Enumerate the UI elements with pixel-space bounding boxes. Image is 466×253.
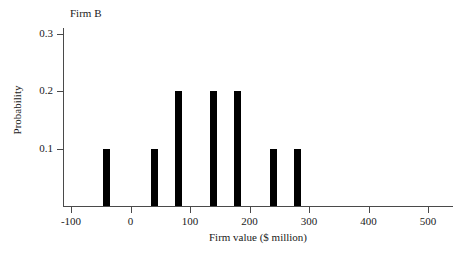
x-tick-mark (190, 206, 191, 213)
x-tick-label: 200 (228, 215, 272, 227)
y-tick-mark (57, 91, 64, 92)
bar (270, 149, 277, 206)
bar (210, 91, 217, 206)
y-axis-label: Probability (11, 65, 23, 155)
x-tick-label: 100 (168, 215, 212, 227)
y-tick-label: 0.1 (23, 143, 53, 154)
x-tick-label: 400 (347, 215, 391, 227)
plot-area: Firm B Probability Firm value ($ million… (0, 0, 466, 253)
x-tick-mark (71, 206, 72, 213)
x-tick-mark (309, 206, 310, 213)
x-tick-mark (250, 206, 251, 213)
bar (175, 91, 182, 206)
x-tick-mark (369, 206, 370, 213)
bar (151, 149, 158, 206)
chart-title: Firm B (70, 7, 101, 19)
bar (103, 149, 110, 206)
bar (294, 149, 301, 206)
y-tick-label: 0.2 (23, 85, 53, 96)
x-tick-label: 300 (287, 215, 331, 227)
x-tick-label: -100 (49, 215, 93, 227)
x-axis-label: Firm value ($ million) (63, 231, 453, 243)
x-tick-mark (428, 206, 429, 213)
x-tick-label: 0 (109, 215, 153, 227)
y-tick-label: 0.3 (23, 28, 53, 39)
y-axis-line (63, 28, 64, 207)
y-tick-mark (57, 34, 64, 35)
x-tick-mark (131, 206, 132, 213)
y-tick-mark (57, 149, 64, 150)
x-tick-label: 500 (406, 215, 450, 227)
bar (234, 91, 241, 206)
chart-figure: Firm B Probability Firm value ($ million… (0, 0, 466, 253)
x-axis-line (63, 206, 453, 207)
